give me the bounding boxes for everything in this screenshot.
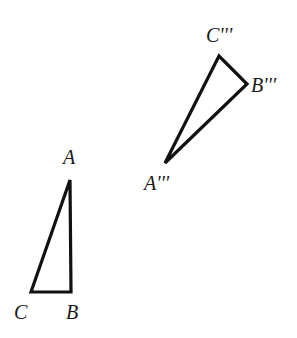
label-a-triple-prime: A''' [142,172,170,194]
triangle-abc [31,180,71,292]
label-b-triple-prime: B''' [251,74,277,96]
triangle-a3b3c3 [165,56,247,163]
label-c: C [14,301,28,323]
label-a: A [61,146,76,168]
label-c-triple-prime: C''' [206,24,233,46]
label-b: B [66,301,78,323]
diagram-canvas: A B C A''' B''' C''' [0,0,297,338]
